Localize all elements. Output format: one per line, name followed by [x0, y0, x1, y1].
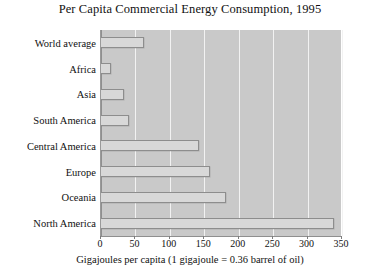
y-axis-label-asia: Asia [0, 89, 96, 100]
x-tick-label-100: 100 [161, 238, 176, 249]
x-tick-label-50: 50 [129, 238, 139, 249]
x-tick-100 [169, 236, 170, 239]
x-tick-label-350: 350 [334, 238, 349, 249]
bar [101, 140, 199, 151]
y-axis-label-central-america: Central America [0, 140, 96, 151]
gridline-350 [342, 30, 343, 236]
bar [101, 37, 144, 48]
bar [101, 89, 124, 100]
x-tick-label-200: 200 [230, 238, 245, 249]
y-axis-label-oceania: Oceania [0, 192, 96, 203]
bar [101, 63, 111, 74]
bar-series [101, 30, 341, 236]
bar-row [101, 185, 341, 211]
x-tick-0 [100, 236, 101, 239]
x-tick-350 [341, 236, 342, 239]
x-tick-label-150: 150 [196, 238, 211, 249]
bar-row [101, 82, 341, 108]
x-tick-250 [272, 236, 273, 239]
x-axis-label: Gigajoules per capita (1 gigajoule = 0.3… [0, 254, 380, 265]
x-axis-line [100, 236, 341, 237]
y-axis-category-labels: World averageAfricaAsiaSouth AmericaCent… [0, 30, 96, 236]
bar [101, 192, 226, 203]
x-tick-300 [307, 236, 308, 239]
x-axis-tick-labels: 050100150200250300350 [0, 238, 380, 252]
y-axis-label-world-average: World average [0, 37, 96, 48]
y-axis-label-north-america: North America [0, 218, 96, 229]
bar-row [101, 30, 341, 56]
bar-row [101, 133, 341, 159]
bar [101, 166, 210, 177]
x-tick-150 [203, 236, 204, 239]
bar-row [101, 159, 341, 185]
x-tick-label-300: 300 [299, 238, 314, 249]
x-tick-label-0: 0 [98, 238, 103, 249]
x-tick-label-250: 250 [265, 238, 280, 249]
y-axis-label-africa: Africa [0, 63, 96, 74]
y-axis-label-europe: Europe [0, 166, 96, 177]
x-tick-50 [134, 236, 135, 239]
bar-row [101, 210, 341, 236]
chart-title: Per Capita Commercial Energy Consumption… [0, 2, 380, 17]
y-axis-label-south-america: South America [0, 115, 96, 126]
x-tick-200 [238, 236, 239, 239]
bar [101, 218, 334, 229]
chart-figure: Per Capita Commercial Energy Consumption… [0, 0, 380, 277]
bar-row [101, 56, 341, 82]
bar [101, 115, 129, 126]
bar-row [101, 107, 341, 133]
plot-area [100, 30, 341, 236]
